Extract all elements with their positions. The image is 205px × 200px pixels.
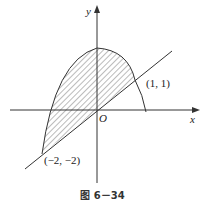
x-axis-label: x xyxy=(190,114,195,125)
diagram-canvas xyxy=(0,0,205,200)
shaded-region xyxy=(42,48,135,154)
origin-label: O xyxy=(99,113,107,124)
point-label-neg2-neg2: (−2, −2) xyxy=(44,155,80,166)
figure-caption: 图 6－34 xyxy=(0,187,205,200)
point-label-1-1: (1, 1) xyxy=(146,78,170,89)
y-axis-label: y xyxy=(86,6,91,17)
figure: y x O (1, 1) (−2, −2) 图 6－34 xyxy=(0,0,205,200)
y-axis-arrow-icon xyxy=(94,5,100,13)
